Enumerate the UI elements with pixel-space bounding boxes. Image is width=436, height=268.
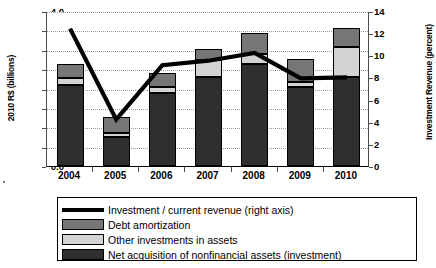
x-tick-label-2007: 2007 bbox=[183, 170, 233, 181]
y-tick-label-right: 14 bbox=[374, 6, 404, 17]
y-tick-mark-left bbox=[42, 167, 46, 168]
legend-label: Investment / current revenue (right axis… bbox=[108, 204, 294, 216]
y-axis-right-title: Investment Revenue (percent) bbox=[424, 30, 434, 140]
legend-key-line bbox=[62, 204, 104, 215]
page-speck bbox=[3, 181, 5, 183]
x-tick-label-2008: 2008 bbox=[229, 170, 279, 181]
legend-item: Other investments in assets bbox=[62, 232, 416, 247]
legend-label: Net acquisition of nonfinancial assets (… bbox=[108, 249, 341, 261]
x-tick-label-2006: 2006 bbox=[136, 170, 186, 181]
y-tick-label-right: 6 bbox=[374, 95, 404, 106]
investment-chart: 2010 R$ (billions) Investment Revenue (p… bbox=[0, 0, 436, 268]
plot-area bbox=[46, 12, 369, 167]
line-path bbox=[70, 29, 347, 120]
legend-label: Debt amortization bbox=[108, 219, 190, 231]
y-tick-mark-right bbox=[369, 167, 373, 168]
legend-key-swatch-other bbox=[62, 234, 104, 245]
chart-legend: Investment / current revenue (right axis… bbox=[57, 197, 417, 261]
y-tick-label-right: 12 bbox=[374, 28, 404, 39]
y-tick-label-right: 4 bbox=[374, 117, 404, 128]
x-tick-label-2004: 2004 bbox=[44, 170, 94, 181]
x-tick-label-2010: 2010 bbox=[321, 170, 371, 181]
line-series-investment-revenue bbox=[47, 12, 370, 167]
x-tick-label-2009: 2009 bbox=[275, 170, 325, 181]
legend-key-swatch-debt bbox=[62, 219, 104, 230]
x-tick-label-2005: 2005 bbox=[90, 170, 140, 181]
y-tick-label-right: 10 bbox=[374, 50, 404, 61]
legend-item: Debt amortization bbox=[62, 217, 416, 232]
legend-item: Net acquisition of nonfinancial assets (… bbox=[62, 247, 416, 262]
legend-label: Other investments in assets bbox=[108, 234, 238, 246]
y-tick-label-right: 2 bbox=[374, 139, 404, 150]
legend-key-swatch-net bbox=[62, 249, 104, 260]
legend-item: Investment / current revenue (right axis… bbox=[62, 202, 416, 217]
y-tick-label-right: 8 bbox=[374, 72, 404, 83]
y-tick-label-right: 0 bbox=[374, 161, 404, 172]
